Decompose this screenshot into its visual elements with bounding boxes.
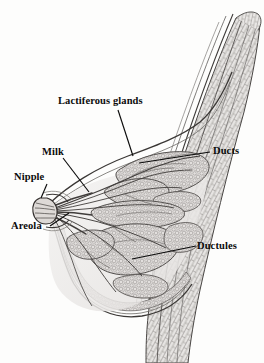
leader-milk bbox=[63, 158, 89, 192]
figure-canvas: Lactiferous glands Milk Nipple Areola Du… bbox=[0, 0, 264, 363]
label-areola: Areola bbox=[11, 221, 42, 232]
label-ductules: Ductules bbox=[197, 241, 237, 252]
leader-nipple bbox=[41, 184, 47, 198]
label-milk: Milk bbox=[42, 147, 64, 158]
label-nipple: Nipple bbox=[14, 172, 44, 183]
leader-lactiferous-glands bbox=[118, 110, 133, 156]
label-ducts: Ducts bbox=[213, 146, 239, 157]
label-lactiferous-glands: Lactiferous glands bbox=[58, 96, 143, 107]
